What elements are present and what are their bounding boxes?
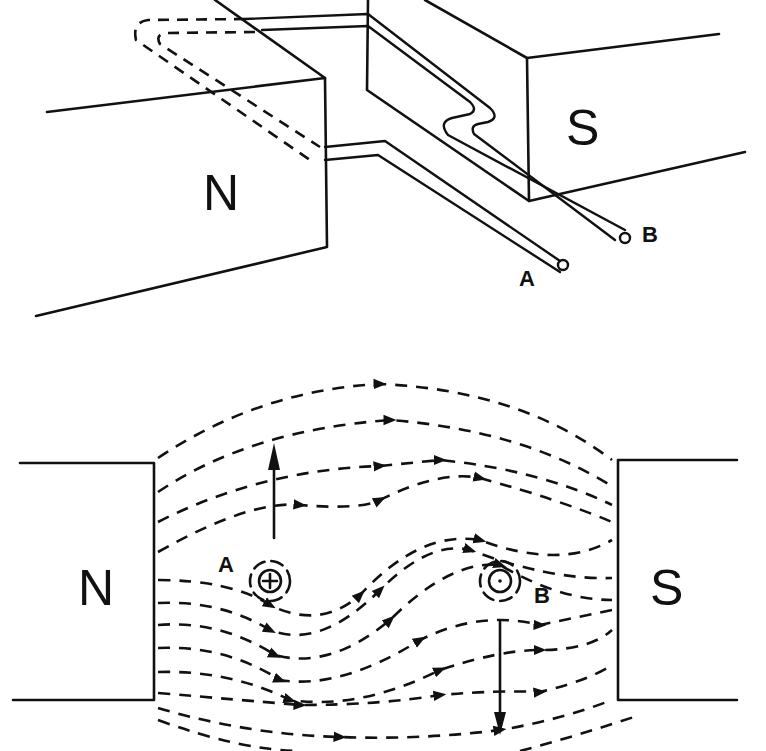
bottom-south-label: S: [650, 560, 683, 616]
bottom-figure: A B N S: [13, 384, 737, 751]
wire-end-b-icon: [620, 233, 630, 243]
diagram-canvas: N S A B A: [0, 0, 766, 751]
conductor-b-label: B: [534, 583, 550, 608]
conductor-b: B: [480, 561, 550, 735]
top-figure: N S A B: [36, 0, 745, 316]
south-magnet-block: [367, 0, 745, 201]
conductor-a: A: [218, 443, 290, 601]
north-magnet-block: [36, 0, 327, 316]
top-wire-a-label: A: [519, 266, 535, 291]
top-north-label: N: [203, 165, 239, 221]
bottom-north-label: N: [78, 560, 114, 616]
conductor-a-label: A: [218, 552, 234, 577]
top-wire-b-label: B: [642, 222, 658, 247]
wire-end-a-icon: [558, 260, 568, 270]
top-south-label: S: [566, 100, 599, 156]
